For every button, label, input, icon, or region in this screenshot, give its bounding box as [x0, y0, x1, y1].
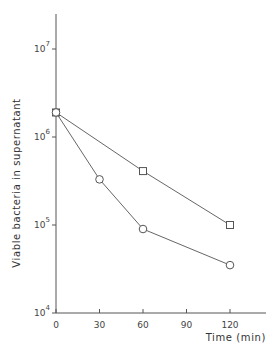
- x-tick-label: 60: [137, 320, 149, 330]
- y-axis-label: Viable bacteria in supernatant: [11, 98, 22, 267]
- x-tick-label: 120: [221, 320, 238, 330]
- circle-series-point: [226, 261, 234, 269]
- x-tick-label: 90: [181, 320, 193, 330]
- x-ticks: 0306090120: [53, 309, 239, 330]
- y-ticks: 104105106107: [34, 40, 56, 318]
- y-tick-label: 105: [34, 216, 50, 230]
- circle-series-line: [56, 112, 230, 265]
- x-tick-label: 30: [94, 320, 106, 330]
- circle-series-point: [96, 176, 104, 184]
- square-series-point: [140, 168, 147, 175]
- x-tick-label: 0: [53, 320, 59, 330]
- circle-series-point: [139, 225, 147, 233]
- axes: [56, 14, 266, 313]
- y-tick-label: 104: [34, 304, 50, 318]
- y-tick-label: 106: [34, 128, 50, 142]
- circle-series-point: [52, 109, 60, 117]
- square-series-point: [227, 222, 234, 229]
- series: [52, 109, 234, 269]
- chart: 104105106107 0306090120 Time (min) Viabl…: [0, 0, 280, 362]
- y-tick-label: 107: [34, 40, 50, 54]
- x-axis-label: Time (min): [205, 332, 266, 343]
